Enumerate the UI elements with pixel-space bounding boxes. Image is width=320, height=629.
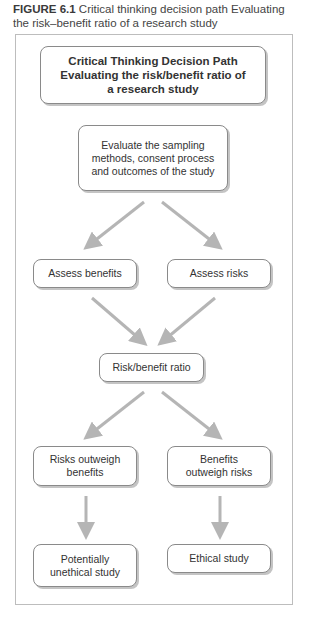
- arrow-evaluate-to-risks: [162, 202, 218, 246]
- arrow-ratio-to-benefits-outweigh: [162, 392, 218, 436]
- node-risks-outweigh-benefits: Risks outweigh benefits: [33, 446, 137, 486]
- node-risks-outweigh-label: Risks outweigh benefits: [48, 453, 122, 479]
- node-benefits-outweigh-label: Benefits outweigh risks: [182, 453, 256, 479]
- node-risk-benefit-ratio-label: Risk/benefit ratio: [112, 361, 190, 374]
- node-ethical-study: Ethical study: [167, 544, 271, 573]
- node-unethical-label: Potentially unethical study: [46, 553, 124, 579]
- node-evaluate: Evaluate the sampling methods, consent p…: [78, 125, 228, 191]
- arrow-benefits-to-ratio: [92, 298, 143, 342]
- node-assess-risks: Assess risks: [167, 259, 271, 288]
- title-line-3: a research study: [107, 82, 198, 96]
- node-potentially-unethical-study: Potentially unethical study: [33, 544, 137, 587]
- arrow-risks-to-ratio: [162, 298, 215, 342]
- node-evaluate-label: Evaluate the sampling methods, consent p…: [89, 139, 217, 178]
- node-benefits-outweigh-risks: Benefits outweigh risks: [167, 446, 271, 486]
- title-line-1: Critical Thinking Decision Path: [68, 54, 237, 68]
- node-assess-benefits: Assess benefits: [33, 259, 137, 288]
- node-assess-risks-label: Assess risks: [190, 267, 248, 280]
- node-risk-benefit-ratio: Risk/benefit ratio: [99, 353, 204, 382]
- title-box: Critical Thinking Decision Path Evaluati…: [40, 46, 266, 104]
- node-ethical-label: Ethical study: [189, 552, 249, 565]
- node-assess-benefits-label: Assess benefits: [48, 267, 122, 280]
- arrow-ratio-to-risks-outweigh: [88, 392, 144, 436]
- arrow-evaluate-to-benefits: [88, 202, 144, 246]
- title-line-2: Evaluating the risk/benefit ratio of: [60, 68, 245, 82]
